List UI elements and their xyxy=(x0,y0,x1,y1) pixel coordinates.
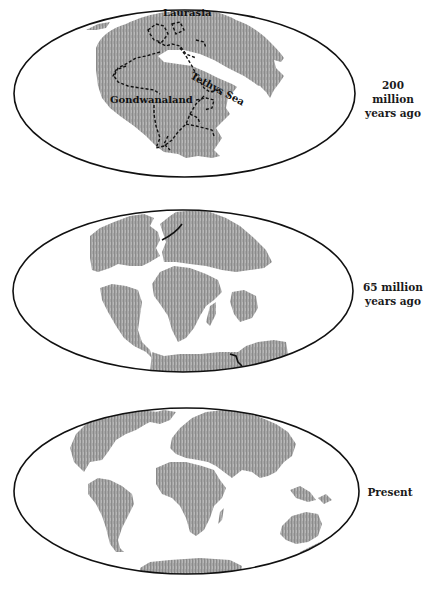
south-america-65ma xyxy=(100,284,152,358)
australia-present xyxy=(280,512,322,544)
madagascar-65ma xyxy=(206,302,216,326)
era-label-200ma-line1: 200 million xyxy=(360,78,426,106)
southeast-asia-islands xyxy=(290,486,332,504)
antarctica-65ma xyxy=(150,340,288,380)
nw-fragment xyxy=(86,22,110,30)
label-gondwanaland: Gondwanaland xyxy=(110,94,193,105)
era-label-present: Present xyxy=(360,485,420,499)
map-present xyxy=(14,408,359,580)
era-label-200ma-line2: years ago xyxy=(360,106,426,120)
eurasia-65ma xyxy=(160,210,272,272)
south-america-present xyxy=(88,478,134,552)
north-america-present xyxy=(70,410,158,472)
era-label-200ma: 200 million years ago xyxy=(360,78,426,120)
map-65-million-years-ago xyxy=(13,210,353,380)
era-label-present-line1: Present xyxy=(360,485,420,499)
antarctica-present xyxy=(140,558,242,580)
africa-65ma xyxy=(152,266,222,342)
madagascar-present xyxy=(218,508,224,524)
north-america-65ma xyxy=(90,214,160,272)
india-65ma xyxy=(230,290,258,322)
era-label-65ma: 65 million years ago xyxy=(360,280,426,308)
era-label-65ma-line1: 65 million xyxy=(360,280,426,294)
label-laurasia: Laurasia xyxy=(163,7,211,18)
era-label-65ma-line2: years ago xyxy=(360,294,426,308)
africa-present xyxy=(156,462,226,536)
